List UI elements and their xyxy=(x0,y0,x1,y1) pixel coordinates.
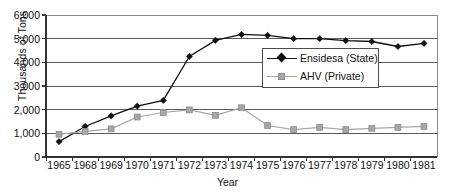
data-point-diamond xyxy=(238,31,244,37)
x-tick-label: 1979 xyxy=(360,160,383,171)
data-point-diamond xyxy=(160,97,166,103)
data-point-diamond xyxy=(421,40,427,46)
square-marker-icon xyxy=(267,70,297,82)
data-point-square xyxy=(186,107,192,113)
x-tick-label: 1978 xyxy=(334,160,357,171)
legend-item-ensidesa[interactable]: Ensidesa (State) xyxy=(263,49,378,67)
x-tick-label: 1968 xyxy=(73,160,96,171)
legend: Ensidesa (State) AHV (Private) xyxy=(262,48,379,88)
data-point-square xyxy=(395,125,401,131)
data-point-diamond xyxy=(317,36,323,42)
y-tick-label: 1,000 xyxy=(0,128,40,138)
data-point-diamond xyxy=(186,53,192,59)
data-point-diamond xyxy=(134,103,140,109)
x-tick-label: 1981 xyxy=(412,160,435,171)
y-axis-tick-labels: 6,000 5,000 4,000 3,000 2,000 1,000 0 xyxy=(0,0,40,194)
x-tick-label: 1980 xyxy=(386,160,409,171)
legend-label: AHV (Private) xyxy=(297,70,364,82)
data-point-square xyxy=(291,127,297,133)
x-tick-label: 1971 xyxy=(152,160,175,171)
data-point-square xyxy=(213,112,219,118)
y-tick-label: 5,000 xyxy=(0,34,40,44)
x-tick-label: 1965 xyxy=(47,160,70,171)
data-point-diamond xyxy=(108,113,114,119)
x-tick-label: 1970 xyxy=(126,160,149,171)
x-tick-label: 1974 xyxy=(230,160,253,171)
x-tick-label: 1972 xyxy=(178,160,201,171)
legend-label: Ensidesa (State) xyxy=(297,52,378,64)
y-tick-label: 3,000 xyxy=(0,81,40,91)
diamond-marker-icon xyxy=(267,52,297,64)
y-tick-label: 0 xyxy=(0,152,40,162)
data-point-square xyxy=(265,123,271,129)
x-tick-label: 1976 xyxy=(282,160,305,171)
x-tick-label: 1977 xyxy=(308,160,331,171)
data-point-diamond xyxy=(369,38,375,44)
x-tick-label: 1969 xyxy=(99,160,122,171)
y-tick-label: 4,000 xyxy=(0,57,40,67)
data-point-diamond xyxy=(212,37,218,43)
data-point-square xyxy=(82,129,88,135)
data-point-square xyxy=(56,131,62,137)
data-point-diamond xyxy=(56,139,62,145)
y-tick-label: 2,000 xyxy=(0,105,40,115)
x-tick-label: 1973 xyxy=(204,160,227,171)
data-point-square xyxy=(239,105,245,111)
chart-container: Thousands of Tons 6,000 5,000 4,000 3,00… xyxy=(0,0,455,194)
data-point-diamond xyxy=(264,32,270,38)
data-point-square xyxy=(369,125,375,131)
data-point-square xyxy=(317,125,323,131)
data-point-square xyxy=(343,127,349,133)
legend-item-ahv[interactable]: AHV (Private) xyxy=(263,67,378,85)
data-point-square xyxy=(421,124,427,130)
x-tick-label: 1975 xyxy=(256,160,279,171)
y-tick-label: 6,000 xyxy=(0,10,40,20)
data-point-diamond xyxy=(395,43,401,49)
data-point-square xyxy=(108,126,114,132)
data-point-square xyxy=(134,114,140,120)
data-point-diamond xyxy=(291,36,297,42)
x-axis-title: Year xyxy=(0,176,455,188)
data-point-square xyxy=(160,110,166,116)
